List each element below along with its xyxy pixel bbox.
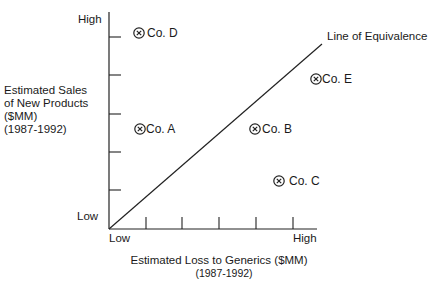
point-label-co-a: Co. A — [146, 123, 175, 136]
line-of-equivalence — [109, 44, 322, 229]
x-axis-title: Estimated Loss to Generics ($MM) (1987-1… — [0, 254, 444, 280]
x-axis-high-label: High — [293, 232, 317, 245]
x-axis-ticks — [146, 217, 293, 229]
y-axis-title-line-2: of New Products — [4, 97, 88, 110]
y-axis-low-label: Low — [77, 210, 98, 223]
y-axis-title: Estimated Sales of New Products ($MM) (1… — [4, 84, 88, 136]
y-axis-title-line-4: (1987-1992) — [4, 123, 88, 136]
y-axis-title-line-3: ($MM) — [4, 110, 88, 123]
circled-x-marker-co-e — [311, 74, 321, 84]
circled-x-marker-co-b — [250, 124, 260, 134]
circled-x-marker-co-d — [134, 28, 144, 38]
scatter-plot — [0, 0, 444, 290]
x-axis-low-label: Low — [109, 232, 130, 245]
x-axis-title-line-1: Estimated Loss to Generics ($MM) — [0, 254, 441, 267]
circled-x-marker-co-a — [135, 124, 145, 134]
y-axis-title-line-1: Estimated Sales — [4, 84, 88, 97]
circled-x-marker-co-c — [274, 176, 284, 186]
point-label-co-c: Co. C — [289, 175, 320, 188]
point-label-co-b: Co. B — [262, 123, 292, 136]
y-axis-ticks — [109, 37, 121, 190]
y-axis-high-label: High — [78, 13, 102, 26]
point-label-co-e: Co. E — [322, 73, 352, 86]
x-axis-title-line-2: (1987-1992) — [2, 267, 444, 280]
line-of-equivalence-label: Line of Equivalence — [327, 30, 427, 43]
point-label-co-d: Co. D — [147, 27, 178, 40]
